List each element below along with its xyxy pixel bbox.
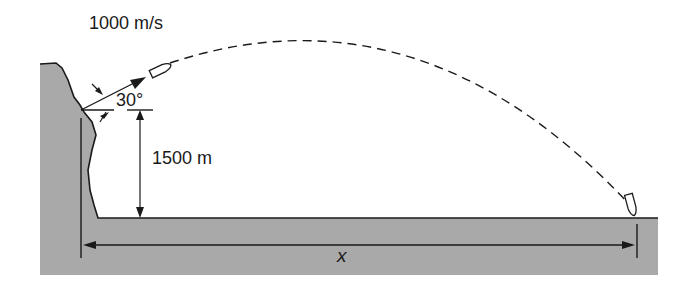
projectile-start-icon	[149, 61, 172, 78]
angle-label: 30°	[116, 90, 143, 111]
height-arrowhead-bottom-icon	[136, 207, 144, 218]
trajectory-path	[170, 41, 630, 205]
velocity-arrowhead-icon	[130, 77, 146, 89]
angle-arrowhead-lower-icon	[100, 112, 109, 119]
projectile-end-icon	[625, 193, 638, 216]
cliff-outline	[40, 63, 658, 218]
diagram-canvas	[0, 0, 699, 291]
range-label: x	[337, 245, 347, 267]
speed-label: 1000 m/s	[89, 13, 163, 34]
height-label: 1500 m	[152, 148, 212, 169]
height-arrowhead-top-icon	[136, 110, 144, 120]
